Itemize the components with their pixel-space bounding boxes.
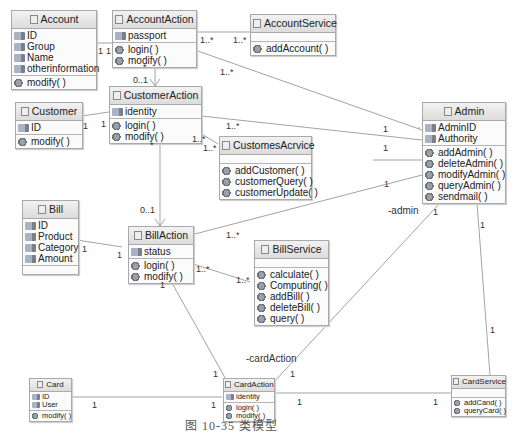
operations: modify( ): [16, 135, 82, 148]
operation-icon: [32, 413, 40, 419]
class-header: Card: [30, 379, 71, 392]
attribute-icon: [14, 43, 25, 51]
class-icon: [222, 141, 230, 150]
class-customes-acrvice[interactable]: CustomesAcrvice addCustomer( ) customerQ…: [219, 136, 312, 200]
class-header: Bill: [23, 201, 78, 219]
operation-icon: [425, 149, 436, 157]
role-label-card-action: -cardAction: [246, 353, 297, 364]
role-label-admin: -admin: [388, 205, 419, 216]
multiplicity-label: *: [150, 140, 154, 150]
multiplicity-label: 0..1: [133, 75, 148, 85]
class-icon: [21, 107, 29, 116]
multiplicity-label: 1..*: [196, 264, 210, 274]
multiplicity-label: 1..*: [233, 35, 247, 45]
class-icon: [37, 381, 43, 388]
attributes: ID Product Category Amount: [23, 219, 78, 266]
attribute-icon: [25, 244, 36, 252]
attribute-icon: [32, 402, 40, 408]
multiplicity-label: 1: [383, 143, 388, 153]
class-header: Account: [12, 11, 96, 29]
class-header: CardService: [452, 376, 505, 389]
class-icon: [30, 15, 38, 24]
attribute-icon: [425, 124, 436, 132]
class-account-service[interactable]: AccountService addAccount( ): [250, 14, 336, 56]
class-bill[interactable]: Bill ID Product Category Amount: [22, 200, 79, 275]
class-customer[interactable]: Customer ID modify( ): [15, 102, 83, 149]
class-icon: [115, 15, 123, 24]
operations: [23, 266, 78, 274]
class-icon: [261, 245, 269, 254]
multiplicity-label: 1..*: [226, 121, 240, 131]
attribute-icon: [14, 54, 25, 62]
multiplicity-label: 1: [383, 124, 388, 134]
class-bill-service[interactable]: BillService calculate( ) Computing( ) ad…: [254, 240, 329, 326]
operation-icon: [222, 178, 233, 186]
operations: addAdmin( ) deleteAdmin( ) modifyAdmin( …: [423, 146, 505, 203]
operation-icon: [257, 315, 268, 323]
attributes: identity: [224, 392, 274, 403]
attributes: ID User: [30, 392, 71, 411]
multiplicity-label: 1: [384, 179, 389, 189]
attribute-icon: [25, 233, 36, 241]
multiplicity-label: 1: [211, 400, 216, 410]
operations: addCustomer( ) customerQuery( ) customer…: [220, 164, 311, 199]
multiplicity-label: 1: [117, 250, 122, 260]
attribute-icon: [14, 32, 25, 40]
operation-icon: [425, 160, 436, 168]
multiplicity-label: 1..*: [226, 230, 240, 240]
operation-icon: [425, 171, 436, 179]
class-header: Admin: [423, 103, 505, 121]
class-header: BillAction: [129, 227, 193, 245]
multiplicity-label: 1: [213, 369, 218, 379]
operation-icon: [257, 304, 268, 312]
class-icon: [444, 107, 452, 116]
multiplicity-label: 1: [98, 46, 103, 56]
operations: addAccount( ): [251, 42, 335, 55]
operations: calculate( ) Computing( ) addBill( ) del…: [255, 268, 328, 325]
class-account-action[interactable]: AccountAction passport login( ) modify( …: [112, 10, 197, 68]
operations: login( ) modify( ): [110, 119, 201, 143]
class-card-service[interactable]: CardService addCand( ) queryCard( ): [451, 375, 506, 417]
attribute-icon: [131, 248, 142, 256]
attribute-icon: [226, 394, 234, 400]
attributes: [255, 259, 328, 268]
multiplicity-label: 1: [290, 369, 295, 379]
operation-icon: [257, 293, 268, 301]
operation-icon: [425, 193, 436, 201]
class-header: AccountAction: [113, 11, 196, 29]
class-admin[interactable]: Admin AdminID Authority addAdmin( ) dele…: [422, 102, 506, 204]
operation-icon: [18, 138, 29, 146]
multiplicity-label: 1..*: [203, 143, 217, 153]
multiplicity-label: 0..1: [140, 205, 155, 215]
class-bill-action[interactable]: BillAction status login( ) modify( ): [128, 226, 194, 284]
attribute-icon: [115, 32, 126, 40]
attribute-icon: [14, 65, 25, 73]
attribute-icon: [18, 124, 29, 132]
class-icon: [453, 378, 459, 385]
class-card[interactable]: Card ID User modify( ): [29, 378, 72, 422]
attributes: ID: [16, 121, 82, 135]
class-icon: [113, 91, 121, 100]
multiplicity-label: 1: [297, 397, 302, 407]
class-header: CardAction: [224, 379, 274, 392]
attribute-icon: [32, 394, 40, 400]
attributes: passport: [113, 29, 196, 43]
class-header: BillService: [255, 241, 328, 259]
operation-icon: [454, 408, 462, 414]
operation-icon: [112, 133, 123, 141]
operation-icon: [112, 122, 123, 130]
class-customer-action[interactable]: CustomerAction identity login( ) modify(…: [109, 86, 202, 144]
multiplicity-label: 1: [83, 121, 88, 131]
attributes: [251, 33, 335, 42]
multiplicity-label: 1: [92, 400, 97, 410]
figure-caption: 图 10-35 类模型: [185, 416, 278, 434]
class-account[interactable]: Account ID Group Name otherinformation m…: [11, 10, 97, 90]
operation-icon: [131, 273, 142, 281]
attributes: status: [129, 245, 193, 259]
class-header: AccountService: [251, 15, 335, 33]
operation-icon: [222, 167, 233, 175]
operation-icon: [454, 400, 462, 406]
operations: login( ) modify( ): [113, 43, 196, 67]
class-icon: [38, 205, 46, 214]
attributes: ID Group Name otherinformation: [12, 29, 96, 76]
